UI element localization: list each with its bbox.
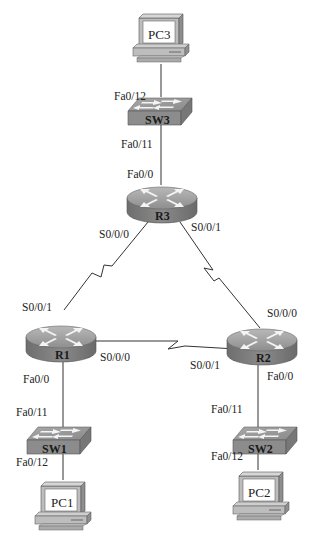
r1-label: R1	[55, 349, 70, 361]
sw1-label: SW1	[42, 443, 67, 455]
sw3-fa0-12-label: Fa0/12	[114, 91, 146, 103]
r1-fa0-0-label: Fa0/0	[23, 374, 49, 386]
sw3-label: SW3	[145, 114, 170, 126]
link-r1-r2-serial	[96, 341, 236, 349]
r3-label: R3	[155, 210, 170, 222]
r1-s0-0-0-label: S0/0/0	[100, 352, 130, 364]
sw2-fa0-11-label: Fa0/11	[211, 404, 243, 416]
link-r3-r2-serial	[180, 222, 260, 328]
r3-fa0-0-label: Fa0/0	[127, 169, 153, 181]
r1-s0-0-1-label: S0/0/1	[22, 302, 52, 314]
r2-label: R2	[256, 352, 271, 364]
pc3-label: PC3	[148, 28, 170, 41]
r3-s0-0-1-label: S0/0/1	[191, 222, 221, 234]
pc1-label: PC1	[51, 496, 73, 509]
r2-fa0-0-label: Fa0/0	[267, 371, 293, 383]
r3-s0-0-0-label: S0/0/0	[99, 229, 129, 241]
topology-canvas	[0, 0, 315, 552]
sw2-label: SW2	[248, 443, 273, 455]
sw3-fa0-11-label: Fa0/11	[121, 139, 153, 151]
sw1-fa0-12-label: Fa0/12	[16, 457, 48, 469]
pc2-label: PC2	[248, 486, 270, 499]
r2-s0-0-1-label: S0/0/1	[190, 360, 220, 372]
r2-s0-0-0-label: S0/0/0	[267, 308, 297, 320]
sw1-fa0-11-label: Fa0/11	[16, 407, 48, 419]
sw2-fa0-12-label: Fa0/12	[211, 451, 243, 463]
